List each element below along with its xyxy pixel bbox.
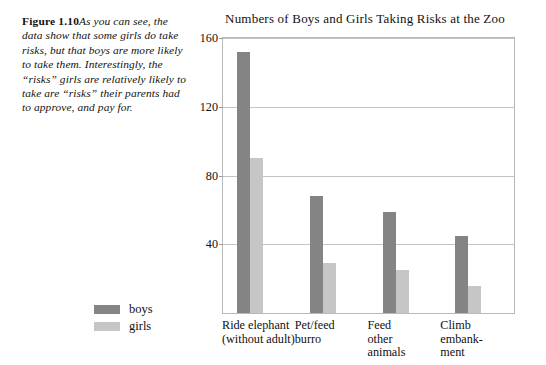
x-axis-label: Pet/feed burro xyxy=(295,319,335,346)
figure-caption-text: Figure 1.10As you can see, the data show… xyxy=(22,14,190,115)
bar-girls-1 xyxy=(323,263,336,313)
x-axis-label: Feed other animals xyxy=(368,319,406,360)
legend-label-girls: girls xyxy=(129,319,151,334)
x-axis-label: Climb embank- ment xyxy=(440,319,483,360)
bar-girls-3 xyxy=(468,286,481,314)
x-axis-label: Ride elephant (without adult) xyxy=(222,319,295,346)
figure-caption: Figure 1.10As you can see, the data show… xyxy=(22,14,190,115)
y-tick-mark xyxy=(219,244,223,245)
bar-boys-0 xyxy=(237,52,250,313)
legend-swatch-boys xyxy=(94,305,120,314)
bar-boys-2 xyxy=(383,212,396,313)
bar-girls-2 xyxy=(396,270,409,313)
y-tick-mark xyxy=(219,107,223,108)
figure-caption-label: Figure 1.10 xyxy=(22,15,79,27)
y-tick-label: 40 xyxy=(206,237,218,252)
y-gridline xyxy=(223,107,514,108)
legend-swatch-girls xyxy=(94,322,120,331)
legend-label-boys: boys xyxy=(129,302,153,317)
legend-item-boys: boys xyxy=(94,301,153,318)
y-gridline xyxy=(223,176,514,177)
y-tick-label: 120 xyxy=(200,99,218,114)
y-tick-mark xyxy=(219,38,223,39)
plot-area: 4080120160 xyxy=(222,37,515,314)
bar-chart: Numbers of Boys and Girls Taking Risks a… xyxy=(200,0,546,365)
chart-title: Numbers of Boys and Girls Taking Risks a… xyxy=(200,11,530,27)
y-tick-label: 80 xyxy=(206,168,218,183)
y-tick-mark xyxy=(219,176,223,177)
y-tick-label: 160 xyxy=(200,31,218,46)
figure-caption-body: As you can see, the data show that some … xyxy=(22,15,186,113)
bar-boys-1 xyxy=(310,196,323,313)
y-gridline xyxy=(223,38,514,39)
legend-item-girls: girls xyxy=(94,318,153,335)
bar-girls-0 xyxy=(250,158,263,313)
bar-boys-3 xyxy=(455,236,468,313)
chart-legend: boys girls xyxy=(94,301,153,335)
y-gridline xyxy=(223,244,514,245)
